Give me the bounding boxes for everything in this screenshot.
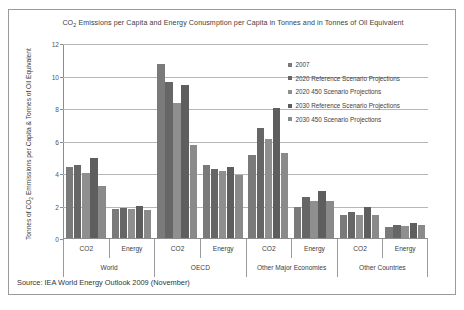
chart-screenshot: CO2 Emissions per Capita and Energy Conu…: [0, 0, 464, 310]
bar-group: [200, 43, 246, 238]
legend-item: 2020 Reference Scenario Projections: [288, 72, 448, 86]
bar-group-bars: [246, 43, 292, 238]
chart-legend: 20072020 Reference Scenario Projections2…: [288, 58, 448, 126]
bar: [66, 167, 73, 239]
category-group-label: World: [63, 258, 154, 277]
chart-title-post: Emissions per Capita and Energy Conusmpt…: [76, 19, 403, 27]
bar: [310, 201, 317, 238]
legend-swatch-icon: [288, 90, 292, 94]
bar: [340, 215, 347, 238]
bar: [219, 171, 226, 238]
bar: [356, 215, 363, 238]
y-tick-label: 12: [52, 41, 59, 48]
bar: [157, 64, 164, 238]
bar: [273, 108, 280, 238]
bar: [326, 201, 333, 238]
bar: [265, 139, 272, 238]
legend-label: 2020 450 Scenario Projections: [296, 88, 382, 95]
bar: [257, 128, 264, 239]
bar-group-bars: [63, 43, 109, 238]
y-tick-label: 0: [55, 236, 59, 243]
bar: [302, 197, 309, 238]
legend-label: 2007: [296, 61, 310, 68]
category-sub-label: CO2: [246, 239, 292, 258]
bar: [82, 173, 89, 238]
bar: [144, 210, 151, 238]
bar-group-bars: [109, 43, 155, 238]
legend-swatch-icon: [288, 76, 292, 80]
source-note: Source: IEA World Energy Outlook 2009 (N…: [17, 278, 190, 287]
bar: [318, 191, 325, 238]
legend-label: 2030 450 Scenario Projections: [296, 116, 382, 123]
y-tick-label: 8: [55, 106, 59, 113]
bar: [128, 209, 135, 238]
bar: [372, 215, 379, 238]
bar: [248, 155, 255, 238]
bar: [348, 212, 355, 238]
category-sub-label: Energy: [382, 239, 428, 258]
y-tick-label: 2: [55, 203, 59, 210]
bar: [281, 153, 288, 238]
category-axis: CO2EnergyCO2EnergyCO2EnergyCO2Energy Wor…: [63, 239, 428, 277]
bar: [364, 207, 371, 238]
bar-group-bars: [200, 43, 246, 238]
chart-title-pre: CO: [62, 19, 73, 27]
chart-title: CO2 Emissions per Capita and Energy Conu…: [20, 18, 446, 28]
bar: [235, 175, 242, 238]
category-sub-label: CO2: [154, 239, 200, 258]
category-grouprow: WorldOECDOther Major EconomiesOther Coun…: [63, 258, 428, 277]
category-group-label: OECD: [154, 258, 245, 277]
bar: [190, 145, 197, 238]
bar: [136, 206, 143, 239]
bar-group: [246, 43, 292, 238]
bar-group: [63, 43, 109, 238]
bar: [203, 165, 210, 238]
bar: [120, 208, 127, 238]
bar: [112, 209, 119, 238]
y-axis-title-container: Tonnes of CO2 Emmissions per Capita & To…: [18, 60, 40, 240]
legend-item: 2030 Reference Scenario Projections: [288, 99, 448, 113]
y-tick-label: 10: [52, 73, 59, 80]
bar: [211, 169, 218, 238]
y-axis-title-pre: Tonnes of CO: [25, 200, 32, 240]
bar: [98, 186, 105, 238]
category-subrow: CO2EnergyCO2EnergyCO2EnergyCO2Energy: [63, 239, 428, 258]
bar: [74, 165, 81, 238]
legend-item: 2020 450 Scenario Projections: [288, 85, 448, 99]
bar: [165, 82, 172, 238]
bar: [227, 167, 234, 239]
legend-swatch-icon: [288, 63, 292, 67]
bar: [401, 226, 408, 238]
bar-group: [109, 43, 155, 238]
legend-swatch-icon: [288, 117, 292, 121]
y-axis-title-subscript: 2: [28, 197, 34, 200]
y-tick-label: 4: [55, 171, 59, 178]
bar: [181, 85, 188, 238]
chart-title-subscript: 2: [73, 22, 76, 28]
bar: [393, 225, 400, 238]
category-sub-label: Energy: [109, 239, 155, 258]
bar: [173, 103, 180, 238]
legend-swatch-icon: [288, 104, 292, 108]
y-axis-title-post: Emmissions per Capita & Tonnes of Oil Eq…: [25, 48, 32, 197]
y-tick-label: 6: [55, 138, 59, 145]
bar: [294, 207, 301, 238]
category-sub-label: CO2: [63, 239, 109, 258]
category-sub-label: CO2: [337, 239, 383, 258]
category-group-label: Other Major Economies: [246, 258, 337, 277]
legend-item: 2030 450 Scenario Projections: [288, 112, 448, 126]
bar: [418, 225, 425, 238]
legend-item: 2007: [288, 58, 448, 72]
legend-label: 2030 Reference Scenario Projections: [296, 102, 400, 109]
bar-group: [154, 43, 200, 238]
bar-group-bars: [154, 43, 200, 238]
bar: [90, 158, 97, 238]
category-group-label: Other Countries: [337, 258, 428, 277]
legend-label: 2020 Reference Scenario Projections: [296, 75, 400, 82]
category-sub-label: Energy: [291, 239, 337, 258]
bar: [410, 223, 417, 238]
bar: [385, 227, 392, 238]
y-axis-title: Tonnes of CO2 Emmissions per Capita & To…: [24, 60, 34, 240]
category-sub-label: Energy: [200, 239, 246, 258]
